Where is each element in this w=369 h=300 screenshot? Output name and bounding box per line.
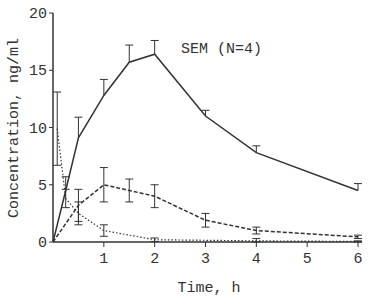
y-tick-label: 5 (38, 178, 47, 195)
y-tick-label: 10 (29, 121, 47, 138)
y-axis-title: Concentration, ng/ml (6, 38, 23, 218)
x-tick-label: 4 (252, 251, 261, 268)
x-axis-title: Time, h (177, 280, 240, 297)
x-tick-label: 3 (201, 251, 210, 268)
y-tick-label: 20 (29, 6, 47, 23)
y-tick-label: 0 (38, 235, 47, 252)
sem-annotation: SEM (N=4) (181, 41, 262, 58)
x-tick-label: 1 (99, 251, 108, 268)
x-tick-label: 2 (150, 251, 159, 268)
x-tick-label: 6 (353, 251, 362, 268)
y-tick-label: 15 (29, 63, 47, 80)
concentration-time-chart: 05101520123456Time, hConcentration, ng/m… (0, 0, 369, 300)
x-tick-label: 5 (303, 251, 312, 268)
